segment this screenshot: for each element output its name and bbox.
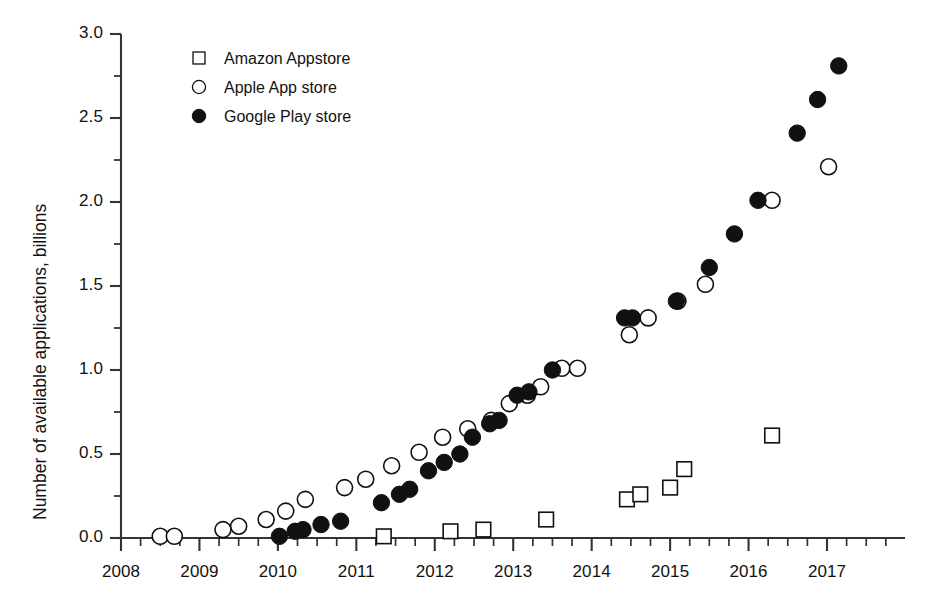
data-point-google: [464, 429, 480, 445]
data-point-google: [420, 463, 436, 479]
data-point-google: [401, 481, 417, 497]
data-point-apple: [570, 360, 586, 376]
data-point-amazon: [663, 480, 678, 495]
data-point-apple: [821, 159, 837, 175]
x-tick-label: 2015: [640, 562, 700, 582]
y-tick-label: 2.5: [0, 107, 103, 127]
legend-label-amazon: Amazon Appstore: [224, 50, 350, 68]
legend-label-google: Google Play store: [224, 108, 351, 126]
y-tick-label: 2.0: [0, 191, 103, 211]
chart-container: Number of available applications, billio…: [0, 0, 934, 601]
data-point-google: [831, 58, 847, 74]
data-point-apple: [697, 276, 713, 292]
x-tick-label: 2014: [562, 562, 622, 582]
scatter-plot-canvas: [0, 0, 934, 601]
data-point-amazon: [376, 529, 391, 544]
data-point-apple: [231, 518, 247, 534]
data-point-google: [726, 226, 742, 242]
y-tick-label: 3.0: [0, 23, 103, 43]
data-point-apple: [435, 429, 451, 445]
data-point-google: [192, 109, 205, 122]
series-amazon-appstore-markers: [376, 428, 779, 543]
x-tick-label: 2017: [797, 562, 857, 582]
data-point-amazon: [633, 487, 648, 502]
data-point-amazon: [193, 52, 205, 64]
data-point-amazon: [443, 524, 458, 539]
legend-label-apple: Apple App store: [224, 79, 337, 97]
series-apple-app-store-markers: [152, 159, 836, 545]
data-point-apple: [337, 480, 353, 496]
data-point-google: [750, 192, 766, 208]
data-point-apple: [278, 503, 294, 519]
x-tick-label: 2010: [248, 562, 308, 582]
data-point-apple: [258, 512, 274, 528]
x-tick-label: 2009: [169, 562, 229, 582]
x-tick-label: 2012: [405, 562, 465, 582]
y-tick-label: 1.0: [0, 359, 103, 379]
data-point-apple: [358, 471, 374, 487]
data-point-apple: [215, 522, 231, 538]
data-point-apple: [192, 80, 205, 93]
data-point-google: [295, 521, 311, 537]
data-point-apple: [384, 458, 400, 474]
y-tick-label: 1.5: [0, 275, 103, 295]
data-point-google: [789, 125, 805, 141]
x-tick-label: 2016: [719, 562, 779, 582]
data-point-google: [332, 513, 348, 529]
data-point-apple: [640, 310, 656, 326]
data-point-google: [491, 412, 507, 428]
data-point-amazon: [620, 492, 635, 507]
data-point-google: [701, 259, 717, 275]
data-point-apple: [166, 528, 182, 544]
data-point-google: [452, 446, 468, 462]
data-point-google: [271, 528, 287, 544]
data-point-amazon: [539, 512, 554, 527]
y-tick-label: 0.5: [0, 443, 103, 463]
data-point-google: [668, 293, 684, 309]
x-tick-label: 2008: [91, 562, 151, 582]
data-point-amazon: [765, 428, 780, 443]
y-tick-label: 0.0: [0, 527, 103, 547]
data-point-google: [521, 384, 537, 400]
data-point-amazon: [476, 522, 491, 537]
data-point-google: [436, 454, 452, 470]
data-point-google: [624, 310, 640, 326]
data-point-google: [373, 495, 389, 511]
legend-markers: [192, 52, 205, 123]
x-tick-label: 2011: [326, 562, 386, 582]
data-point-apple: [411, 444, 427, 460]
data-point-amazon: [677, 462, 692, 477]
x-tick-label: 2013: [483, 562, 543, 582]
data-point-google: [313, 516, 329, 532]
data-point-apple: [297, 491, 313, 507]
data-point-apple: [621, 327, 637, 343]
data-point-google: [809, 91, 825, 107]
data-point-google: [544, 362, 560, 378]
series-google-play-store-markers: [271, 58, 847, 545]
